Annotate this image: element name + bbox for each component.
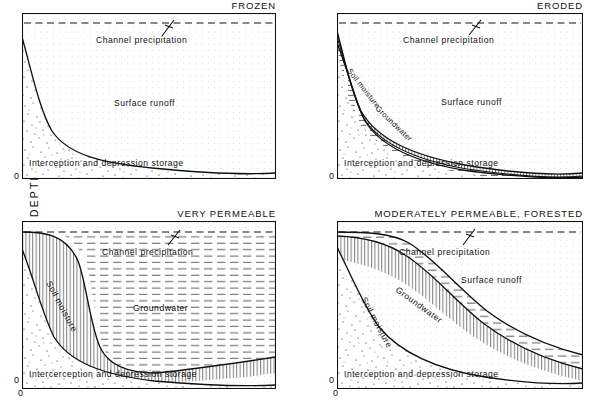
panel-moderately-permeable-forested: MODERATELY PERMEABLE, FORESTED	[337, 221, 583, 389]
label-interception-storage: Interception and depression storage	[344, 158, 499, 168]
panel-title-frozen: FROZEN	[232, 0, 276, 11]
panel-title-eroded: ERODED	[537, 0, 583, 11]
label-surface-runoff: Surface runoff	[114, 98, 175, 108]
figure-rainfall-disposition: RAINFALL DEPTH PER UNIT OF TIME FROZEN	[0, 0, 595, 409]
panel-eroded-plot: Channel precipitation Surface runoff Int…	[337, 13, 583, 179]
label-surface-runoff: Surface runoff	[441, 97, 502, 107]
label-interception-storage: Interception and depression storage	[29, 158, 184, 168]
zero-label-eroded: 0	[329, 171, 334, 181]
label-channel-precipitation: Channel precipitation	[399, 247, 490, 257]
label-channel-precipitation: Channel precipitation	[102, 247, 193, 257]
zero-axis-label-very-permeable: 0	[18, 388, 23, 398]
label-channel-precipitation: Channel precipitation	[96, 35, 187, 45]
label-interception-storage: Intercerception and depression storage	[29, 369, 197, 379]
panel-very-permeable-plot: Channel precipitation Groundwater Soil m…	[22, 221, 276, 389]
panel-frozen: FROZEN	[22, 13, 276, 179]
zero-label-frozen: 0	[14, 171, 19, 181]
label-surface-runoff: Surface runoff	[461, 275, 522, 285]
panel-eroded: ERODED	[337, 13, 583, 179]
panel-very-permeable: VERY PERMEABLE	[22, 221, 276, 389]
zero-label-very-permeable: 0	[14, 375, 19, 385]
panel-title-very-permeable: VERY PERMEABLE	[177, 208, 276, 219]
zero-axis-label-moderately-permeable-forested: 0	[333, 388, 338, 398]
panel-moderately-permeable-forested-plot: Channel precipitation Surface runoff Gro…	[337, 221, 583, 389]
panel-title-moderately-permeable-forested: MODERATELY PERMEABLE, FORESTED	[374, 208, 583, 219]
label-channel-precipitation: Channel precipitation	[403, 35, 494, 45]
label-groundwater: Groundwater	[133, 303, 188, 313]
label-interception-storage: Interception and depression storage	[344, 369, 499, 379]
zero-label-moderately-permeable-forested: 0	[329, 375, 334, 385]
panel-frozen-plot: Channel precipitation Surface runoff Int…	[22, 13, 276, 179]
